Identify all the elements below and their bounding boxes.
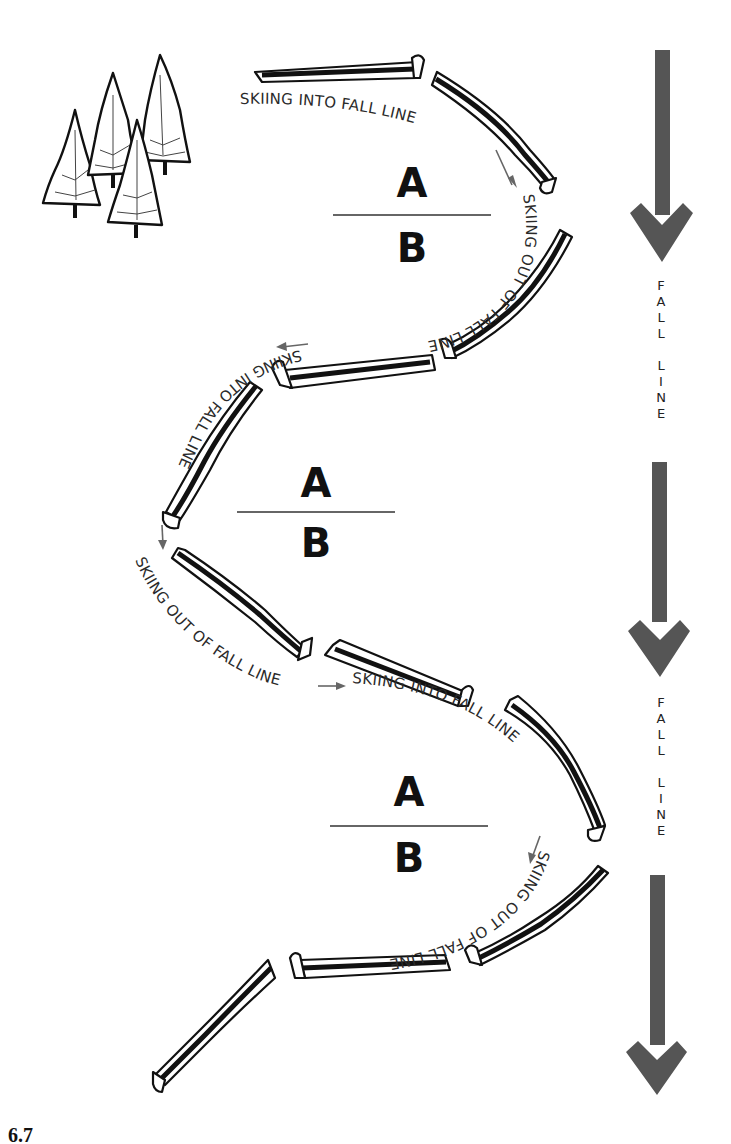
fraction-ab-2: A B xyxy=(237,460,395,566)
pointer-arrow-icon xyxy=(318,682,346,690)
fall-line-word: FALLLINE xyxy=(656,278,666,421)
fall-line-label-1: FALLLINE xyxy=(656,278,666,421)
fraction-ab-1: A B xyxy=(333,160,491,271)
pine-trees-icon xyxy=(43,55,190,238)
down-arrow-icon xyxy=(626,875,687,1095)
pointer-arrow-icon xyxy=(496,150,517,188)
figure-caption: 6.7 xyxy=(0,1124,731,1144)
fraction-ab-3: A B xyxy=(330,769,488,881)
label-skiing-out-1: SKIING OUT OF FALL LINE xyxy=(426,193,540,355)
down-arrow-icon xyxy=(628,462,690,677)
fall-line-label-2: FALLLINE xyxy=(656,695,666,838)
pointer-arrow-icon xyxy=(158,525,167,550)
down-arrow-icon xyxy=(630,50,693,262)
fraction-numerator: A xyxy=(301,460,332,506)
ski-icon xyxy=(505,696,605,841)
label-skiing-into-1: SKIING INTO FALL LINE xyxy=(240,90,418,128)
fall-line-word: FALLLINE xyxy=(656,695,666,838)
fraction-numerator: A xyxy=(394,769,425,815)
fraction-denominator: B xyxy=(301,520,332,566)
ski-icon xyxy=(432,72,556,193)
ski-icon xyxy=(153,960,275,1092)
fraction-denominator: B xyxy=(397,225,428,271)
ski-icon xyxy=(255,55,424,82)
fraction-numerator: A xyxy=(397,160,428,206)
fraction-denominator: B xyxy=(394,835,425,881)
